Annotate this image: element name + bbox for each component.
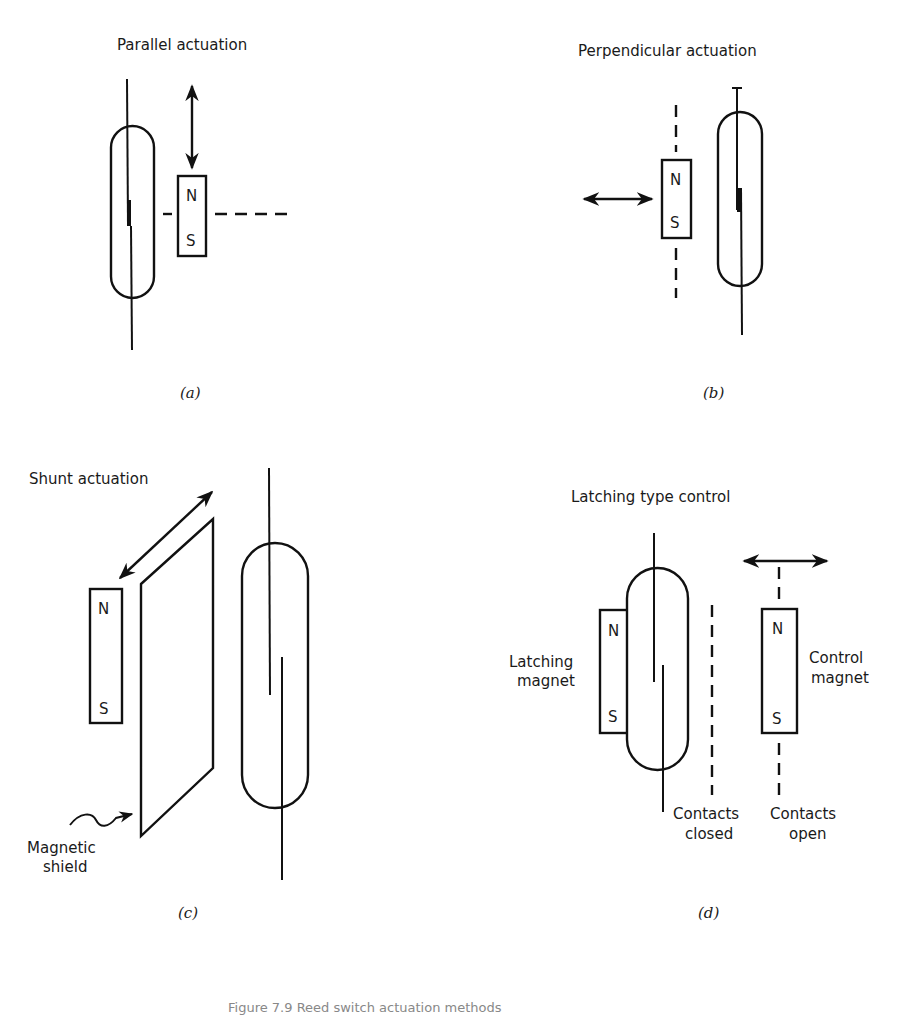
reed-contact bbox=[737, 188, 741, 212]
contacts-closed-label-line1: Contacts bbox=[673, 805, 739, 823]
reed-contact bbox=[127, 200, 131, 226]
panel-a-title: Parallel actuation bbox=[117, 36, 247, 54]
panel-c-title: Shunt actuation bbox=[29, 470, 148, 488]
reed-switch-glass bbox=[242, 543, 308, 808]
magnet-b-north: N bbox=[670, 171, 681, 189]
control-magnet-label-line2: magnet bbox=[811, 669, 869, 687]
reed-lead-top bbox=[269, 468, 270, 695]
shield-label-line2: shield bbox=[43, 858, 87, 876]
control-magnet-south: S bbox=[772, 710, 782, 728]
panel-b: Perpendicular actuation N S (b) bbox=[578, 42, 762, 402]
shield-pointer-arrow-icon bbox=[70, 814, 132, 826]
reed-switch-figure: Parallel actuation N S (a) Perpendicular… bbox=[0, 0, 904, 1015]
latching-magnet-label-line1: Latching bbox=[509, 653, 573, 671]
magnet-a-north: N bbox=[186, 187, 197, 205]
contacts-open-label-line2: open bbox=[789, 825, 826, 843]
contacts-open-label-line1: Contacts bbox=[770, 805, 836, 823]
panel-d-sublabel: (d) bbox=[698, 904, 719, 922]
panel-d-title: Latching type control bbox=[571, 488, 730, 506]
panel-c: Shunt actuation N S Magnetic shield (c) bbox=[27, 468, 308, 922]
shield-motion-arrow-icon bbox=[120, 492, 212, 578]
panel-b-title: Perpendicular actuation bbox=[578, 42, 757, 60]
reed-switch-glass bbox=[111, 126, 154, 298]
reed-lead-bottom bbox=[131, 226, 132, 350]
latching-magnet-north: N bbox=[608, 622, 619, 640]
contacts-closed-label-line2: closed bbox=[685, 825, 733, 843]
latching-magnet-label-line2: magnet bbox=[517, 672, 575, 690]
panel-b-sublabel: (b) bbox=[703, 384, 724, 402]
panel-c-sublabel: (c) bbox=[178, 904, 198, 922]
shield-label-line1: Magnetic bbox=[27, 839, 96, 857]
magnet-b-south: S bbox=[670, 214, 680, 232]
reed-switch-glass bbox=[627, 568, 688, 770]
latching-magnet-south: S bbox=[608, 708, 618, 726]
magnetic-shield bbox=[141, 519, 213, 836]
reed-lead-bottom bbox=[741, 188, 742, 335]
panel-a: Parallel actuation N S (a) bbox=[111, 36, 287, 402]
magnet-c-north: N bbox=[98, 600, 109, 618]
magnet-a-south: S bbox=[186, 232, 196, 250]
magnet-c-south: S bbox=[99, 700, 109, 718]
control-magnet-label-line1: Control bbox=[809, 649, 863, 667]
figure-caption: Figure 7.9 Reed switch actuation methods bbox=[228, 1000, 502, 1015]
control-magnet-north: N bbox=[772, 620, 783, 638]
panel-d: Latching type control N S Latching magne… bbox=[509, 488, 869, 922]
panel-a-sublabel: (a) bbox=[180, 384, 201, 402]
